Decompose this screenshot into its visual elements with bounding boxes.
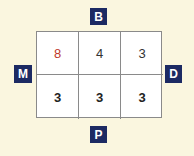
grid-cell-r0-c2: 3: [121, 32, 163, 75]
grid-cell-r0-c0: 8: [37, 32, 79, 75]
number-grid: 8 4 3 3 3 3: [36, 31, 162, 118]
label-left-m: M: [14, 65, 32, 83]
grid-cell-r1-c1: 3: [79, 75, 121, 119]
grid-cell-r1-c2: 3: [121, 75, 163, 119]
grid-cell-r0-c1: 4: [79, 32, 121, 75]
label-bottom-p: P: [90, 126, 107, 143]
grid-cell-r1-c0: 3: [37, 75, 79, 119]
label-right-d: D: [165, 65, 182, 83]
label-top-b: B: [90, 8, 107, 25]
